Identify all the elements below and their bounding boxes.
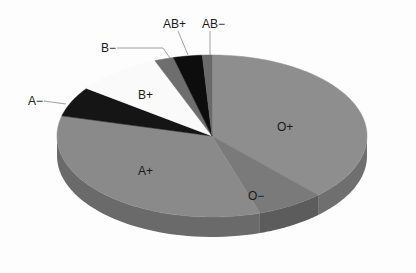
leader-line — [44, 101, 66, 104]
label-b-pos: B+ — [138, 88, 153, 102]
leader-line — [178, 31, 188, 55]
label-a-neg: A− — [28, 94, 43, 108]
blood-type-pie-chart: O+ O− A+ A− B+ B− AB+ AB− — [0, 0, 416, 273]
label-ab-pos: AB+ — [163, 17, 186, 31]
pie-svg: O+ O− A+ A− B+ B− AB+ AB− — [0, 0, 416, 273]
label-o-neg: O− — [248, 189, 264, 203]
leader-line — [117, 48, 170, 58]
label-b-neg: B− — [101, 41, 116, 55]
label-ab-neg: AB− — [202, 17, 225, 31]
label-a-pos: A+ — [138, 164, 153, 178]
pie-top-faces — [57, 55, 367, 217]
label-o-pos: O+ — [277, 120, 293, 134]
